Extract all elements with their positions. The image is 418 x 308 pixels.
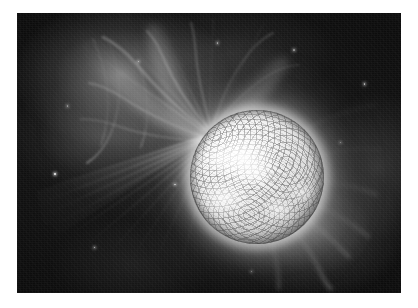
background-star	[138, 61, 140, 63]
background-star	[54, 173, 56, 175]
background-star	[174, 184, 175, 185]
disc-speckle-texture	[190, 110, 324, 244]
astronomy-photograph	[17, 13, 401, 293]
disc-limb-ring	[190, 110, 324, 244]
disc-sunspots	[190, 110, 324, 244]
disc-highlights	[190, 110, 324, 244]
background-star	[217, 42, 218, 43]
background-star	[364, 83, 366, 85]
background-star	[251, 271, 252, 272]
limb-flare-glow	[190, 110, 324, 244]
background-star	[293, 49, 294, 50]
page-canvas	[0, 0, 418, 308]
background-star	[67, 105, 68, 106]
background-star	[340, 142, 341, 143]
background-star	[94, 247, 96, 249]
stellar-disc	[190, 110, 324, 244]
